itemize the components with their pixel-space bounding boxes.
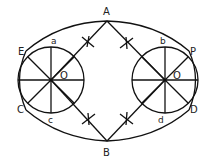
line-B-right (107, 80, 165, 141)
label-C: C (17, 104, 24, 115)
cross-mark-bottom-right (120, 112, 133, 125)
cross-mark-top-right (120, 37, 133, 49)
label-c: c (48, 115, 53, 125)
label-P: P (190, 46, 196, 57)
label-b: b (160, 36, 166, 46)
label-E: E (18, 46, 24, 57)
label-A: A (103, 6, 110, 17)
ellipse-construction-diagram: A B E C P D O O a b c d (0, 0, 211, 164)
label-right-center: O (173, 70, 181, 81)
label-D: D (190, 104, 198, 115)
line-B-left (51, 80, 107, 141)
label-a: a (51, 36, 57, 46)
cross-mark-bottom-left (82, 113, 95, 125)
label-B: B (103, 147, 110, 158)
label-left-center: O (60, 70, 68, 81)
label-d: d (158, 115, 164, 125)
line-A-right (107, 21, 165, 80)
